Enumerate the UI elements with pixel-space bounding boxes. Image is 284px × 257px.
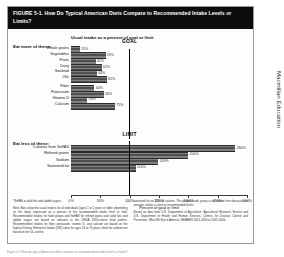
bar-value-label: 42% bbox=[97, 59, 104, 63]
figure-notes: *SoFAS = solid fats and added sugars.Not… bbox=[8, 199, 253, 237]
x-axis-tick bbox=[100, 195, 101, 197]
x-axis-tick bbox=[188, 195, 189, 197]
notes-right-column: saturated fat on 10% of calories. The pr… bbox=[134, 199, 249, 237]
bar-value-label: 149% bbox=[160, 159, 169, 163]
x-axis-tick bbox=[218, 195, 219, 197]
category-label: Whole grains bbox=[47, 46, 69, 50]
category-label: Sodium bbox=[56, 158, 69, 162]
category-label: Vitamin D bbox=[52, 96, 69, 100]
bar-value-label: 200% bbox=[190, 152, 199, 156]
chart-row: Calcium75% bbox=[71, 103, 247, 108]
reference-label-limit: LIMIT bbox=[122, 132, 137, 137]
chart-plot-area: Usual intake as a percent of goal or lim… bbox=[8, 29, 253, 197]
chart-row: Refined grains200% bbox=[71, 152, 247, 157]
chart-row: Fruits42% bbox=[71, 58, 247, 63]
publisher-credit: Macmillan Education bbox=[276, 71, 283, 128]
category-label: Oils bbox=[62, 75, 69, 79]
bar-value-label: 15% bbox=[81, 47, 88, 51]
note-paragraph: saturated fat on 10% of calories. The pr… bbox=[134, 199, 249, 207]
chart-row: Potassium56% bbox=[71, 91, 247, 96]
chart-row: Whole grains15% bbox=[71, 46, 247, 51]
bar-value-label: 56% bbox=[105, 92, 112, 96]
x-axis-tick bbox=[130, 195, 131, 197]
chart-subtitle: Usual intake as a percent of goal or lim… bbox=[71, 35, 153, 40]
category-label: Potassium bbox=[51, 90, 69, 94]
category-label: Refined grains bbox=[44, 151, 69, 155]
note-paragraph: Note: Bars show the usual intakes for al… bbox=[13, 206, 128, 234]
chart-row: Saturated fat110% bbox=[71, 164, 247, 169]
x-axis-tick bbox=[159, 195, 160, 197]
bar-value-label: 75% bbox=[116, 103, 123, 107]
category-label: Fruits bbox=[59, 58, 69, 62]
bar-value-label: 28% bbox=[89, 97, 96, 101]
figure-container: FIGURE 5-1. How Do Typical American Diet… bbox=[7, 6, 254, 244]
category-label: Fiber bbox=[60, 84, 69, 88]
page-edge-caption: Figure 5-1 How do typical American diets… bbox=[7, 250, 254, 255]
category-label: Seafood bbox=[55, 69, 69, 73]
category-label: Calcium bbox=[55, 102, 69, 106]
chart-row: Sodium149% bbox=[71, 158, 247, 163]
chart-row: Vitamin D28% bbox=[71, 97, 247, 102]
chart-row: Fiber40% bbox=[71, 85, 247, 90]
notes-left-column: *SoFAS = solid fats and added sugars.Not… bbox=[13, 199, 128, 237]
note-paragraph: Based on data from U.S. Department of Ag… bbox=[134, 210, 249, 222]
bar-value-label: 280% bbox=[236, 146, 245, 150]
bar-value-label: 40% bbox=[96, 86, 103, 90]
category-label: Saturated fat bbox=[47, 164, 69, 168]
chart-row: Seafood44% bbox=[71, 70, 247, 75]
chart-bar: 75% bbox=[71, 103, 115, 110]
category-label: Calories from SoFAS bbox=[33, 145, 69, 149]
bar-value-label: 61% bbox=[108, 77, 115, 81]
reference-line-limit bbox=[129, 141, 131, 195]
bar-value-label: 59% bbox=[107, 53, 114, 57]
chart-row: Vegetables59% bbox=[71, 52, 247, 57]
note-paragraph: *SoFAS = solid fats and added sugars. bbox=[13, 199, 128, 203]
category-label: Vegetables bbox=[50, 52, 69, 56]
bar-value-label: 52% bbox=[103, 65, 110, 69]
group-heading-eat-more: Eat more of these: bbox=[13, 44, 51, 49]
reference-label-goal: GOAL bbox=[122, 39, 137, 44]
chart-row: Dairy52% bbox=[71, 64, 247, 69]
bar-value-label: 110% bbox=[137, 165, 146, 169]
figure-title: FIGURE 5-1. How Do Typical American Diet… bbox=[8, 7, 253, 29]
x-axis-tick bbox=[247, 195, 248, 197]
chart-row: Calories from SoFAS280% bbox=[71, 145, 247, 150]
category-label: Dairy bbox=[60, 64, 69, 68]
reference-line-goal bbox=[129, 49, 131, 139]
x-axis-tick bbox=[71, 195, 72, 197]
chart-bar: 61% bbox=[71, 76, 107, 83]
chart-row: Oils61% bbox=[71, 76, 247, 81]
bar-value-label: 44% bbox=[98, 71, 105, 75]
chart-bar: 110% bbox=[71, 164, 136, 171]
